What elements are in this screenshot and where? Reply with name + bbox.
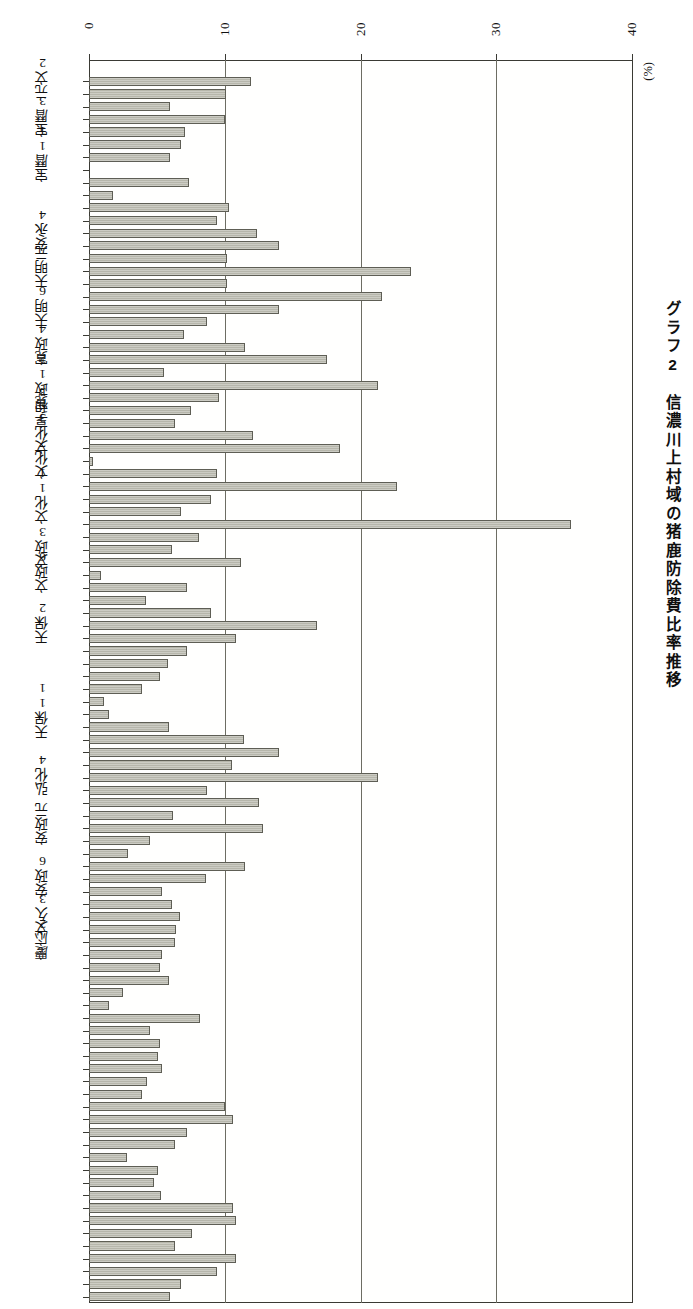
value-tick-label-10: 10 [217, 22, 233, 36]
value-tick-30 [496, 54, 497, 60]
bar [89, 431, 253, 440]
category-label-33: 文化11 [36, 466, 50, 524]
value-tick-40 [632, 54, 633, 60]
category-label-68: 慶応2 [36, 917, 50, 960]
chart-title: グラフ2 信濃川上村域の猪鹿防除費比率推移 [661, 300, 683, 690]
bar [89, 646, 187, 655]
bar [89, 735, 244, 744]
bar [89, 938, 175, 947]
bar [89, 457, 93, 466]
bar [89, 659, 168, 668]
bar [89, 279, 227, 288]
bar [89, 558, 241, 567]
value-tick-label-40: 40 [624, 22, 640, 36]
value-tick-10 [225, 54, 226, 60]
unit-label: (%) [641, 62, 656, 81]
bar [89, 533, 199, 542]
bar [89, 545, 172, 554]
bar [89, 1001, 109, 1010]
bar [89, 722, 169, 731]
bar [89, 520, 571, 529]
value-tick-0 [89, 54, 90, 60]
bar [89, 621, 317, 630]
category-label-50: 天保11 [36, 681, 50, 739]
bar [89, 824, 263, 833]
value-tick-label-0: 0 [81, 22, 97, 29]
bar [89, 241, 279, 250]
bar [89, 1153, 127, 1162]
bar [89, 1014, 200, 1023]
bar [89, 811, 173, 820]
bar [89, 469, 217, 478]
bar [89, 330, 184, 339]
value-tick-20 [361, 54, 362, 60]
bar [89, 102, 170, 111]
bar [89, 583, 187, 592]
bar [89, 1191, 161, 1200]
gridline-30 [496, 60, 497, 1303]
bar [89, 254, 227, 263]
bar [89, 1039, 160, 1048]
bar [89, 89, 226, 98]
category-label-39: 文政6 [36, 550, 50, 593]
bar [89, 1115, 233, 1124]
bar [89, 1292, 170, 1301]
bar [89, 710, 109, 719]
bar [89, 684, 142, 693]
bar [89, 1203, 233, 1212]
bar [89, 229, 257, 238]
bar [89, 608, 211, 617]
bar [89, 950, 162, 959]
bar [89, 1241, 175, 1250]
bar [89, 988, 123, 997]
bar [89, 887, 162, 896]
bar [89, 355, 327, 364]
bar [89, 292, 382, 301]
bar [89, 1052, 158, 1061]
bar [89, 216, 217, 225]
bar [89, 140, 181, 149]
bar [89, 1178, 154, 1187]
bar [89, 419, 175, 428]
category-label-6: 宝暦11 [36, 124, 50, 182]
category-label-18: 天明6 [36, 284, 50, 327]
bar [89, 748, 279, 757]
bar [89, 634, 236, 643]
bar [89, 1140, 175, 1149]
bar [89, 406, 191, 415]
bar [89, 1267, 217, 1276]
bar [89, 191, 113, 200]
bar [89, 507, 181, 516]
bar [89, 178, 189, 187]
bar [89, 571, 101, 580]
bar [89, 1077, 147, 1086]
bar [89, 153, 170, 162]
bar [89, 317, 207, 326]
bar [89, 900, 172, 909]
category-label-55: 弘化4 [36, 752, 50, 795]
bar [89, 115, 225, 124]
bar [89, 596, 146, 605]
value-tick-label-30: 30 [488, 22, 504, 36]
bar [89, 381, 378, 390]
category-label-63: 安政6 [36, 853, 50, 896]
bar [89, 77, 251, 86]
bar [89, 760, 232, 769]
bar [89, 1064, 162, 1073]
category-label-59: 安政元 [36, 803, 50, 845]
category-label-0: 元文2 [36, 56, 50, 99]
bar [89, 1279, 181, 1288]
bar [89, 1254, 236, 1263]
bar [89, 1166, 158, 1175]
bar [89, 368, 164, 377]
value-tick-label-20: 20 [353, 22, 369, 36]
bar [89, 393, 219, 402]
bar [89, 798, 259, 807]
bar [89, 1216, 236, 1225]
bar [89, 1102, 225, 1111]
bar [89, 343, 245, 352]
bar [89, 203, 229, 212]
category-tick [83, 170, 89, 171]
gridline-20 [361, 60, 362, 1303]
bar [89, 495, 211, 504]
